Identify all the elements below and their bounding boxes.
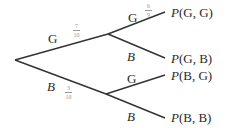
branch-label-BG: G — [127, 72, 136, 85]
outcome-prefix: P — [171, 68, 179, 83]
branch-label-first-B: B — [47, 80, 55, 93]
probability-first-G: 7 10 — [73, 23, 80, 38]
probability-first-B: 3 10 — [65, 85, 72, 100]
branch-G-to-B — [108, 34, 165, 58]
fraction-numerator: 6 — [147, 3, 150, 9]
branch-label-first-G: G — [48, 32, 57, 45]
fraction-numerator: 3 — [67, 85, 70, 91]
fraction-numerator: 7 — [75, 23, 78, 29]
fraction-bar — [73, 30, 80, 31]
fraction-denominator: 9 — [147, 12, 150, 18]
outcome-args: (B, B) — [179, 110, 212, 125]
branch-label-GG: G — [128, 11, 137, 24]
branch-B-to-B — [106, 94, 165, 118]
fraction-denominator: 10 — [66, 94, 72, 100]
probability-GG: 6 9 — [145, 3, 152, 18]
fraction-bar — [65, 92, 72, 93]
outcome-args: (G, G) — [179, 5, 213, 20]
outcome-GG: P(G, G) — [171, 6, 213, 19]
branch-label-BB: B — [127, 110, 135, 123]
branch-root-to-G — [15, 34, 108, 60]
outcome-BB: P(B, B) — [171, 111, 211, 124]
outcome-prefix: P — [171, 110, 179, 125]
fraction-denominator: 10 — [74, 32, 80, 38]
outcome-GB: P(G, B) — [171, 52, 212, 65]
outcome-BG: P(B, G) — [171, 69, 212, 82]
branch-label-GB: B — [127, 50, 135, 63]
outcome-args: (G, B) — [179, 51, 212, 66]
fraction-bar — [145, 10, 152, 11]
outcome-prefix: P — [171, 51, 179, 66]
outcome-args: (B, G) — [179, 68, 212, 83]
outcome-prefix: P — [171, 5, 179, 20]
branch-root-to-B — [15, 60, 106, 94]
